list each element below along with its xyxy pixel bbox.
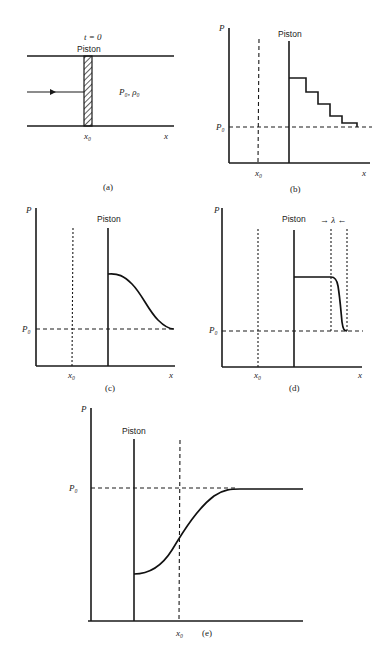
shock-front-curve (294, 277, 347, 331)
piston-label: Piston (77, 44, 101, 54)
x-label: x (168, 370, 173, 380)
panel-d: P Piston → λ ← P₀ x₀ x (d) (208, 205, 363, 393)
pressure-wave-curve (108, 274, 174, 329)
x0-label: x₀ (67, 370, 75, 380)
caption-d: (d) (289, 383, 300, 393)
piston-label: Piston (278, 29, 302, 39)
p0-label: P₀ (215, 122, 225, 132)
caption-e: (e) (202, 628, 212, 638)
rarefaction-curve (134, 489, 303, 574)
caption-b: (b) (290, 184, 301, 194)
x0-label: x₀ (254, 168, 262, 178)
piston-label: Piston (122, 426, 146, 436)
gas-state-label: P₀, ρ₀ (118, 87, 140, 97)
time-label: t = 0 (84, 32, 102, 42)
figure-canvas: t = 0 Piston P₀, ρ₀ x₀ x (a) P Piston P₀… (0, 0, 381, 657)
p0-label: P₀ (21, 324, 31, 334)
x0-label: x₀ (253, 370, 261, 380)
x-label: x (163, 131, 168, 141)
y-axis-label: P (25, 205, 32, 215)
piston-label: Piston (282, 214, 306, 224)
panel-e: P Piston P₀ x₀ (e) (68, 404, 303, 638)
pressure-step-profile (289, 78, 357, 127)
x0-guide (179, 440, 180, 621)
x0-label: x₀ (83, 131, 91, 141)
y-axis-label: P (213, 205, 220, 215)
lambda-label: → λ ← (320, 215, 346, 225)
x-label: x (361, 168, 366, 178)
piston-block (84, 56, 92, 126)
panel-b: P Piston P₀ x₀ x (b) (215, 23, 372, 194)
arrow-head-icon (50, 89, 56, 95)
panel-c: P Piston P₀ x₀ x (c) (21, 205, 175, 393)
p0-label: P₀ (68, 483, 78, 493)
x0-label: x₀ (175, 628, 183, 638)
p0-label: P₀ (208, 325, 218, 335)
piston-label: Piston (97, 214, 121, 224)
x0-guide (258, 39, 259, 163)
panel-a: t = 0 Piston P₀, ρ₀ x₀ x (a) (27, 32, 174, 192)
y-axis-label: P (218, 23, 225, 33)
y-axis-label: P (80, 404, 87, 414)
caption-a: (a) (103, 182, 113, 192)
caption-c: (c) (105, 383, 115, 393)
x-label: x (357, 370, 362, 380)
x0-guide (72, 228, 73, 366)
